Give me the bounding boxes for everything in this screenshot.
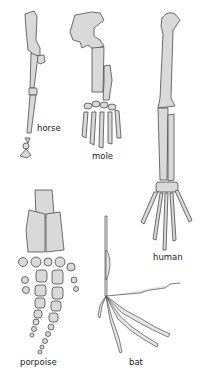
bat-limb (98, 216, 180, 353)
mole-limb (70, 12, 121, 148)
label-mole: mole (92, 151, 113, 161)
homologous-limbs-diagram (0, 0, 206, 373)
label-porpoise: porpoise (20, 357, 57, 367)
horse-limb (20, 11, 45, 158)
human-limb (141, 13, 192, 250)
label-bat: bat (129, 357, 143, 367)
label-horse: horse (37, 123, 61, 133)
porpoise-limb (19, 190, 79, 354)
label-human: human (153, 252, 183, 262)
